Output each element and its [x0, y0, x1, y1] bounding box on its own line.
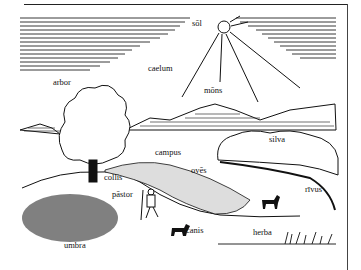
label-oves: ovēs	[191, 166, 207, 175]
label-canis: canis	[186, 226, 203, 235]
shepherd-drawing	[141, 189, 158, 220]
horse-drawing	[262, 195, 280, 209]
label-caelum: caelum	[148, 64, 173, 73]
label-herba: herba	[253, 228, 272, 237]
label-collis: collis	[104, 173, 122, 182]
shade-drawing	[22, 194, 118, 242]
sky-hatching	[20, 18, 336, 70]
label-rivus: rīvus	[305, 185, 322, 194]
label-mons: mōns	[204, 86, 222, 95]
label-pastor: pāstor	[112, 190, 133, 199]
landscape-illustration	[0, 0, 361, 270]
label-silva: silva	[269, 135, 285, 144]
sun-drawing	[182, 16, 300, 102]
label-campus: campus	[155, 148, 181, 157]
grass-drawing	[218, 232, 336, 244]
label-sol: sōl	[192, 19, 202, 28]
label-arbor: arbor	[53, 78, 71, 87]
label-umbra: umbra	[64, 241, 86, 250]
